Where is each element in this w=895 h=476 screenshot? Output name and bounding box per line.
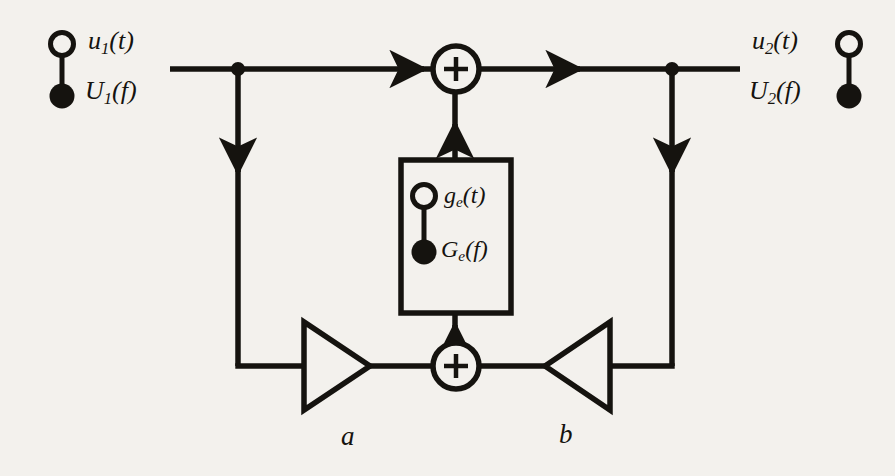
output-filled-dot-icon	[837, 84, 862, 109]
gain-a-label: a	[341, 423, 355, 450]
input-freq-label: U1(f)	[85, 78, 137, 107]
figure-canvas: u1(t) U1(f) u2(t) U2(f) ge(t) Ge(f) a b	[0, 0, 895, 476]
block-filled-dot-icon	[412, 240, 437, 265]
gain-b-label: b	[559, 421, 573, 448]
block-open-circle-icon	[413, 185, 436, 208]
gain-b-triangle[interactable]	[545, 322, 610, 410]
input-branch-node	[231, 62, 245, 76]
block-freq-label: Ge(f)	[441, 237, 488, 264]
input-time-label: u1(t)	[88, 28, 134, 57]
block-time-label: ge(t)	[444, 183, 485, 210]
output-branch-node	[665, 62, 679, 76]
input-filled-dot-icon	[50, 84, 75, 109]
output-time-label: u2(t)	[752, 28, 798, 57]
output-freq-label: U2(f)	[749, 78, 801, 107]
input-open-circle-icon	[51, 33, 74, 56]
gain-a-triangle[interactable]	[304, 322, 370, 410]
output-open-circle-icon	[838, 33, 861, 56]
